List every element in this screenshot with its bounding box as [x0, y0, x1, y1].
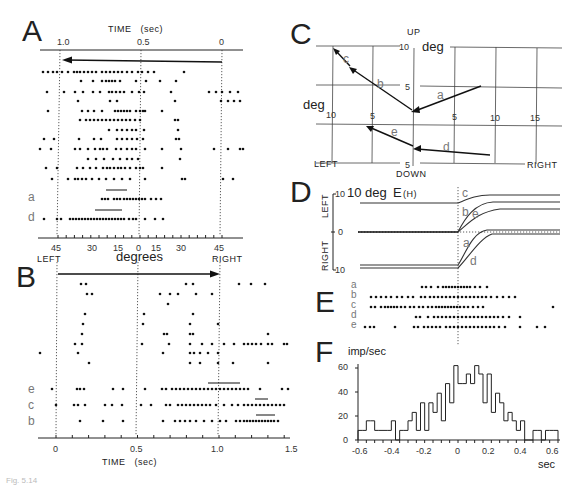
spike-dot: [243, 420, 246, 423]
spike-dot: [126, 110, 129, 113]
spike-dot: [422, 306, 425, 309]
spike-dot: [485, 326, 488, 329]
spike-dot: [239, 100, 242, 103]
spike-dot: [396, 296, 399, 299]
spike-dot: [390, 306, 393, 309]
spike-dot: [39, 352, 42, 355]
panel-c-deg-horizontal: deg: [303, 97, 325, 112]
spike-dot: [465, 326, 468, 329]
spike-dot: [116, 198, 119, 201]
spike-dot: [508, 316, 511, 319]
spike-dot: [138, 91, 141, 94]
spike-dot: [93, 119, 96, 122]
spike-dot: [142, 138, 145, 141]
spike-dot: [171, 388, 174, 391]
spike-dot: [201, 404, 204, 407]
spike-dot: [89, 119, 92, 122]
spike-dot: [63, 91, 66, 94]
spike-dot: [161, 388, 164, 391]
spike-dot: [271, 404, 274, 407]
spike-dot: [267, 343, 270, 346]
spike-dot: [99, 148, 102, 151]
spike-dot: [101, 80, 104, 83]
spike-dot: [237, 404, 240, 407]
spike-dot: [67, 178, 70, 181]
spike-dot: [135, 110, 138, 113]
panel-e-letter: E: [315, 285, 335, 318]
spike-dot: [473, 296, 476, 299]
spike-dot: [168, 343, 171, 346]
spike-dot: [177, 119, 180, 122]
spike-dot: [401, 296, 404, 299]
spike-dot: [109, 71, 112, 74]
spike-dot: [73, 71, 76, 74]
spike-dot: [380, 306, 383, 309]
spike-dot: [179, 420, 182, 423]
spike-dot: [129, 198, 132, 201]
spike-dot: [117, 110, 120, 113]
panel-b-guide-10: [218, 262, 220, 435]
panel-b: B e c b 0 0.5 1.0 1.5 TIME (sec): [16, 260, 298, 467]
spike-dot: [217, 352, 220, 355]
spike-dot: [281, 388, 284, 391]
spike-dot: [199, 362, 202, 365]
spike-dot: [179, 388, 182, 391]
spike-dot: [123, 218, 126, 221]
spike-dot: [195, 420, 198, 423]
spike-dot: [126, 71, 129, 74]
spike-dot: [255, 404, 258, 407]
spike-dot: [144, 110, 147, 113]
spike-dot: [271, 343, 274, 346]
spike-dot: [461, 326, 464, 329]
panel-d-label-e: e: [472, 207, 479, 221]
panel-f-xtick-4: 0: [455, 446, 460, 456]
figure-caption: Fig. 5.14: [6, 476, 37, 485]
spike-dot: [105, 71, 108, 74]
spike-dot: [514, 296, 517, 299]
spike-dot: [102, 148, 105, 151]
spike-dot: [84, 313, 87, 316]
spike-dot: [126, 148, 129, 151]
spike-dot: [115, 91, 118, 94]
spike-dot: [154, 218, 157, 221]
panel-a-top-tick-2: 0.5: [137, 37, 150, 47]
spike-dot: [264, 283, 267, 286]
spike-dot: [82, 91, 85, 94]
spike-dot: [79, 148, 82, 151]
spike-dot: [119, 91, 122, 94]
spike-dot: [112, 388, 115, 391]
spike-dot: [117, 167, 120, 170]
spike-dot: [437, 296, 440, 299]
spike-dot: [552, 306, 555, 309]
spike-dot: [203, 420, 206, 423]
spike-dot: [114, 80, 117, 83]
spike-dot: [231, 404, 234, 407]
spike-dot: [96, 218, 99, 221]
spike-dot: [121, 119, 124, 122]
spike-dot: [86, 293, 89, 296]
spike-dot: [441, 296, 444, 299]
spike-dot: [101, 119, 104, 122]
spike-dot: [223, 404, 226, 407]
panel-c-right-label: RIGHT: [527, 160, 558, 170]
spike-dot: [187, 388, 190, 391]
spike-dot: [404, 306, 407, 309]
panel-d-tick-10-right: 10: [335, 265, 345, 275]
panel-c-grid: [454, 47, 455, 163]
spike-dot: [213, 148, 216, 151]
spike-dot: [136, 138, 139, 141]
spike-dot: [137, 71, 140, 74]
spike-dot: [144, 178, 147, 181]
spike-dot: [489, 316, 492, 319]
panel-f-xtick-3: -0.2: [416, 446, 432, 456]
spike-dot: [222, 178, 225, 181]
spike-dot: [189, 323, 192, 326]
spike-dot: [139, 119, 142, 122]
spike-dot: [166, 333, 169, 336]
spike-dot: [177, 404, 180, 407]
spike-dot: [496, 296, 499, 299]
spike-dot: [161, 148, 164, 151]
spike-dot: [485, 316, 488, 319]
spike-dot: [544, 326, 547, 329]
panel-c-label-a: a: [437, 88, 444, 102]
